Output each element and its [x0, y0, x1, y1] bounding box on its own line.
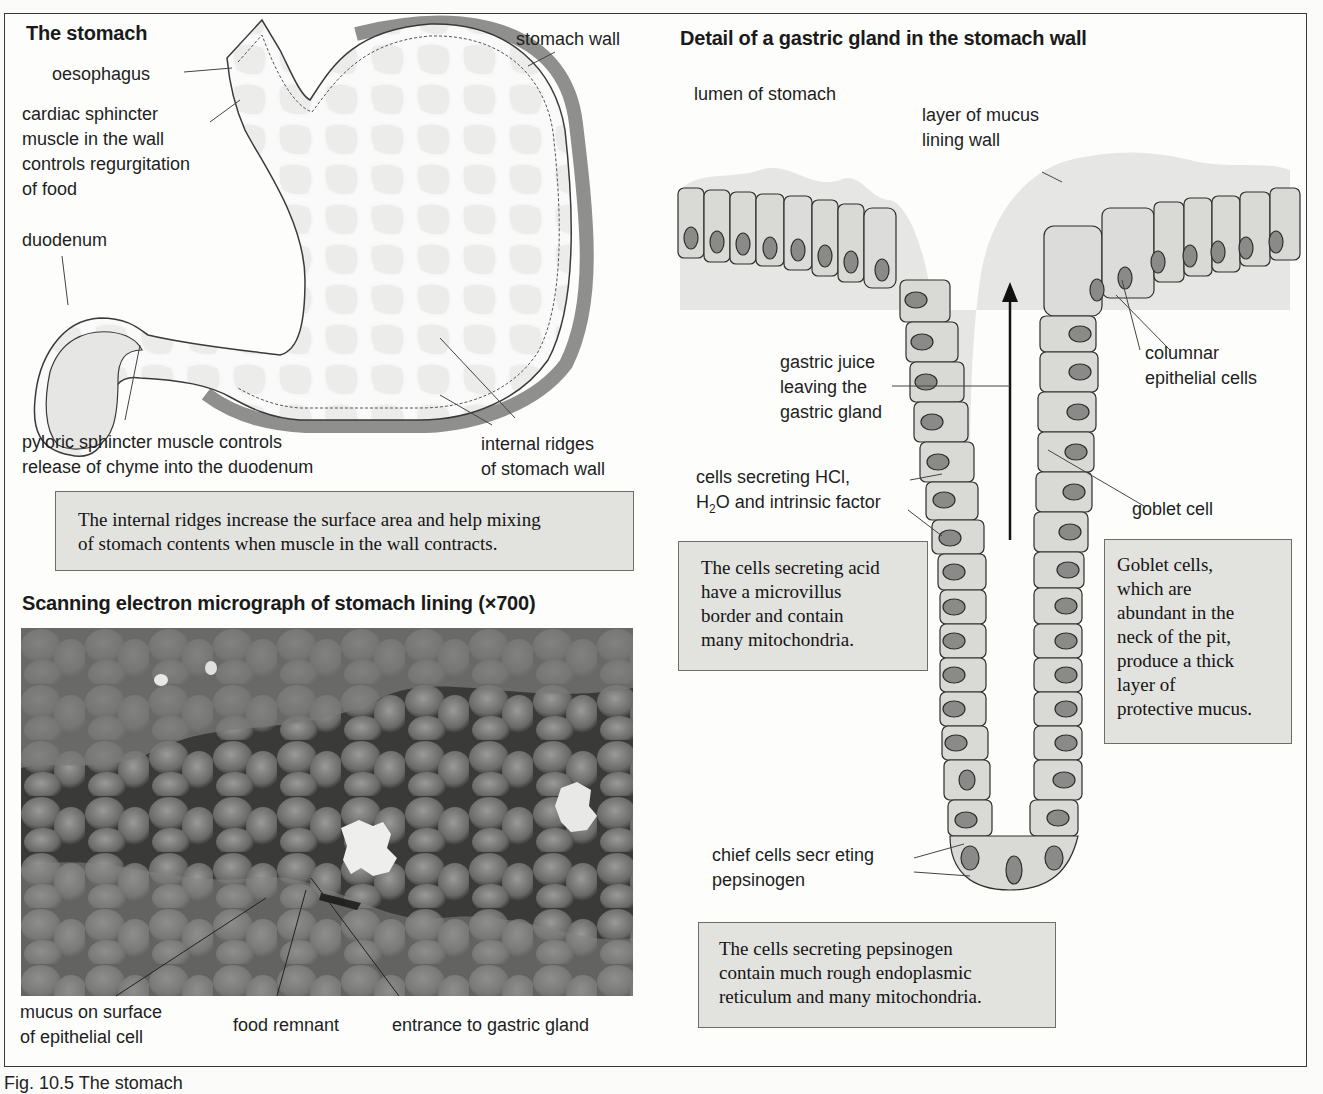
label-line: of stomach wall [481, 457, 605, 482]
note-line: layer of [1117, 673, 1291, 697]
label-chief-cells: chief cells secr eting pepsinogen [712, 843, 874, 893]
label-pyloric-sphincter: pyloric sphincter muscle controls releas… [22, 430, 313, 480]
note-line: The cells secreting acid [701, 556, 927, 580]
label-mucus-layer: layer of mucus lining wall [922, 103, 1039, 153]
label-line: columnar [1145, 341, 1257, 366]
subscript: 2 [709, 502, 716, 516]
label-line: leaving the [780, 375, 882, 400]
label-line: layer of mucus [922, 103, 1039, 128]
label-hcl-cells: cells secreting HCl, H2O and intrinsic f… [696, 465, 881, 522]
label-line: pyloric sphincter muscle controls [22, 430, 313, 455]
note-line: have a microvillus [701, 580, 927, 604]
label-line: of food [22, 177, 190, 202]
note-line: produce a thick [1117, 649, 1291, 673]
note-line: protective mucus. [1117, 697, 1291, 721]
note-line: The cells secreting pepsinogen [719, 937, 1055, 961]
label-line: mucus on surface [20, 1000, 162, 1025]
label-mucus-surface: mucus on surface of epithelial cell [20, 1000, 162, 1050]
note-line: abundant in the [1117, 601, 1291, 625]
figure-caption: Fig. 10.5 The stomach [4, 1073, 183, 1094]
label-stomach-wall: stomach wall [516, 27, 620, 52]
note-line: many mitochondria. [701, 628, 927, 652]
note-internal-ridges: The internal ridges increase the surface… [55, 491, 634, 571]
note-line: neck of the pit, [1117, 625, 1291, 649]
label-oesophagus: oesophagus [52, 62, 150, 87]
note-line: The internal ridges increase the surface… [78, 508, 633, 532]
label-gland-entrance: entrance to gastric gland [392, 1013, 589, 1038]
note-acid-cells: The cells secreting acid have a microvil… [678, 541, 928, 671]
label-duodenum: duodenum [22, 228, 107, 253]
label-goblet-cell: goblet cell [1132, 497, 1213, 522]
label-gastric-juice: gastric juice leaving the gastric gland [780, 350, 882, 425]
label-internal-ridges: internal ridges of stomach wall [481, 432, 605, 482]
label-columnar-cells: columnar epithelial cells [1145, 341, 1257, 391]
label-line: gastric juice [780, 350, 882, 375]
label-part: O and intrinsic factor [716, 492, 881, 512]
label-line: muscle in the wall [22, 127, 190, 152]
note-line: contain much rough endoplasmic [719, 961, 1055, 985]
gland-title: Detail of a gastric gland in the stomach… [680, 27, 1087, 50]
sem-micrograph [21, 628, 633, 996]
label-line: release of chyme into the duodenum [22, 455, 313, 480]
label-line: chief cells secr eting [712, 843, 874, 868]
note-pepsinogen-cells: The cells secreting pepsinogen contain m… [698, 922, 1056, 1028]
note-line: of stomach contents when muscle in the w… [78, 532, 633, 556]
label-part: H [696, 492, 709, 512]
label-food-remnant: food remnant [233, 1013, 339, 1038]
note-line: Goblet cells, [1117, 553, 1291, 577]
micrograph-title: Scanning electron micrograph of stomach … [22, 592, 535, 615]
note-line: border and contain [701, 604, 927, 628]
label-line: of epithelial cell [20, 1025, 162, 1050]
note-line: which are [1117, 577, 1291, 601]
label-line: gastric gland [780, 400, 882, 425]
label-lumen: lumen of stomach [694, 82, 836, 107]
note-goblet-cells: Goblet cells, which are abundant in the … [1104, 539, 1292, 744]
label-line: epithelial cells [1145, 366, 1257, 391]
label-line: cells secreting HCl, [696, 465, 881, 490]
note-line: reticulum and many mitochondria. [719, 985, 1055, 1009]
label-cardiac-sphincter: cardiac sphincter muscle in the wall con… [22, 102, 190, 202]
label-line: cardiac sphincter [22, 102, 190, 127]
label-line: internal ridges [481, 432, 605, 457]
label-line: H2O and intrinsic factor [696, 490, 881, 522]
label-line: pepsinogen [712, 868, 874, 893]
label-line: lining wall [922, 128, 1039, 153]
label-line: controls regurgitation [22, 152, 190, 177]
